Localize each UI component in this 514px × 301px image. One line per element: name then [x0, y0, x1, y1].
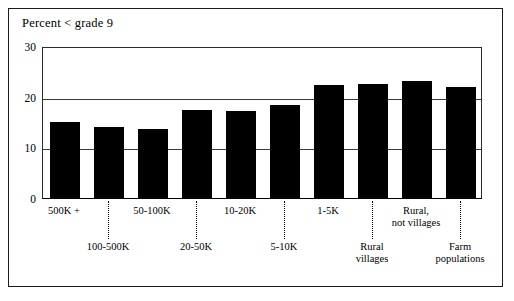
x-tick-label: 20-50K	[154, 241, 238, 253]
bar	[402, 81, 432, 198]
x-tick-label: 1-5K	[286, 205, 370, 217]
y-tick-label: 30	[2, 42, 36, 53]
plot-area	[42, 47, 482, 199]
y-tick-label: 20	[2, 92, 36, 103]
bar	[138, 129, 168, 198]
y-tick-label: 0	[2, 194, 36, 205]
x-label-leader-line	[460, 201, 461, 239]
x-tick-label: Farmpopulations	[418, 241, 502, 265]
y-axis-tick-labels: 0102030	[0, 47, 36, 199]
x-tick-label: 10-20K	[198, 205, 282, 217]
y-tick-label: 10	[2, 143, 36, 154]
x-tick-label: 50-100K	[110, 205, 194, 217]
x-tick-label: 100-500K	[66, 241, 150, 253]
x-label-leader-line	[196, 201, 197, 239]
bar	[270, 105, 300, 198]
bar	[182, 110, 212, 198]
bar	[50, 122, 80, 198]
x-label-leader-line	[108, 201, 109, 239]
bar	[226, 111, 256, 198]
chart-figure: Percent < grade 9 0102030 500K +100-500K…	[0, 0, 514, 301]
bar	[94, 127, 124, 198]
x-tick-label: 5-10K	[242, 241, 326, 253]
bar	[446, 87, 476, 198]
x-label-leader-line	[284, 201, 285, 239]
x-tick-label: 500K +	[22, 205, 106, 217]
bar	[314, 85, 344, 198]
x-label-leader-line	[372, 201, 373, 239]
x-axis-tick-labels: 500K +100-500K50-100K20-50K10-20K5-10K1-…	[42, 199, 482, 287]
x-tick-label: Rural,not villages	[374, 205, 458, 229]
chart-title: Percent < grade 9	[22, 16, 113, 31]
bar	[358, 84, 388, 199]
x-tick-label: Ruralvillages	[330, 241, 414, 265]
